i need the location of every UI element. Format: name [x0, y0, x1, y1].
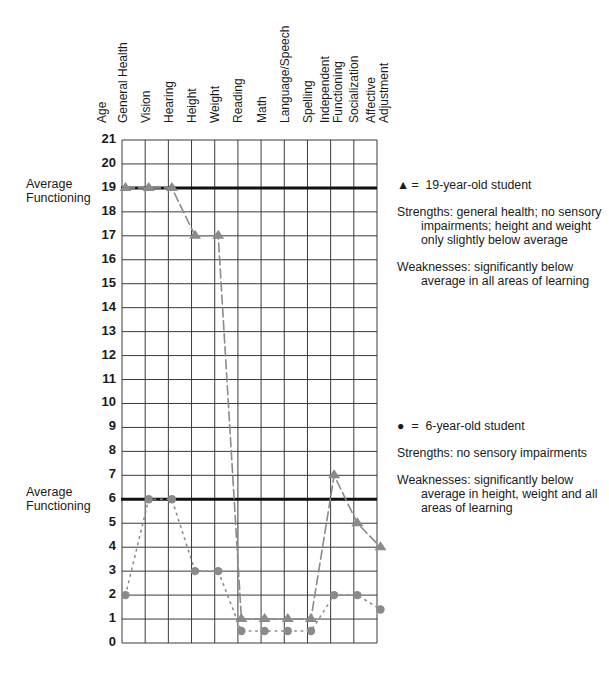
y-tick-label: 15 — [86, 276, 116, 290]
legend-younger-student: ● = 6-year-old student Strengths: no sen… — [397, 419, 609, 528]
triangle-marker — [282, 613, 294, 622]
category-label-line: Language/Speech — [279, 26, 292, 123]
circle-marker — [237, 627, 245, 635]
weaknesses-text: Weaknesses: significantly below average … — [397, 260, 609, 288]
category-label-line: General Health — [117, 42, 130, 123]
y-tick-label: 20 — [86, 156, 116, 170]
y-tick-label: 3 — [86, 563, 116, 577]
triangle-marker — [351, 517, 363, 526]
equals-sign: = — [411, 178, 418, 192]
category-label-line: Vision — [140, 91, 153, 123]
triangle-marker — [189, 230, 201, 239]
circle-marker — [144, 495, 152, 503]
y-tick-label: 10 — [86, 395, 116, 409]
legend-label: 6-year-old student — [425, 419, 524, 433]
y-tick-label: 16 — [86, 252, 116, 266]
y-tick-label: 4 — [86, 539, 116, 553]
category-label-line: Reading — [232, 78, 245, 123]
grid — [122, 140, 377, 643]
category-label-line: Functioning — [332, 56, 345, 123]
category-label-line: Socialization — [348, 56, 361, 123]
average-functioning-lines — [121, 188, 377, 499]
circle-marker — [376, 605, 384, 613]
triangle-marker — [305, 613, 317, 622]
circle-marker — [260, 627, 268, 635]
circle-marker — [353, 591, 361, 599]
circle-marker — [168, 495, 176, 503]
circle-marker — [284, 627, 292, 635]
weaknesses-key: Weaknesses: — [397, 260, 471, 274]
equals-sign: = — [411, 419, 418, 433]
circle-marker — [214, 567, 222, 575]
series-6-year-old — [121, 495, 384, 635]
y-tick-label: 5 — [86, 515, 116, 529]
x-category-label: Math — [256, 96, 269, 123]
category-label-line: Hearing — [163, 81, 176, 123]
y-tick-label: 17 — [86, 228, 116, 242]
strengths-key: Strengths: — [397, 446, 453, 460]
y-tick-label: 12 — [86, 348, 116, 362]
triangle-marker — [259, 613, 271, 622]
avg-label-line1: Average — [26, 485, 91, 499]
x-category-label: Height — [186, 88, 199, 123]
y-tick-label: 7 — [86, 467, 116, 481]
circle-marker — [191, 567, 199, 575]
strengths-text: Strengths: no sensory impairments — [397, 446, 609, 460]
data-series — [120, 182, 387, 635]
x-category-label: AffectiveAdjustment — [365, 63, 391, 123]
circle-marker — [121, 591, 129, 599]
avg-label-line2: Functioning — [26, 499, 91, 513]
category-label-line: Weight — [209, 86, 222, 123]
series-line — [126, 499, 381, 631]
y-tick-label: 0 — [86, 635, 116, 649]
y-tick-label: 14 — [86, 300, 116, 314]
x-category-label: Vision — [140, 91, 153, 123]
category-label-line: Adjustment — [378, 63, 391, 123]
triangle-marker — [328, 469, 340, 478]
x-category-label: Hearing — [163, 81, 176, 123]
average-functioning-label-lower: Average Functioning — [26, 485, 91, 513]
y-tick-label: 11 — [86, 372, 116, 386]
strengths-text: Strengths: general health; no sensory im… — [397, 205, 609, 247]
y-tick-label: 1 — [86, 611, 116, 625]
x-category-label: Weight — [209, 86, 222, 123]
y-axis-title: Age — [96, 102, 109, 123]
legend-header: ● = 6-year-old student — [397, 419, 609, 433]
circle-icon: ● — [397, 419, 408, 433]
weaknesses-key: Weaknesses: — [397, 473, 471, 487]
category-label-line: Height — [186, 88, 199, 123]
series-19-year-old — [120, 182, 387, 622]
circle-marker — [307, 627, 315, 635]
y-tick-label: 13 — [86, 324, 116, 338]
strengths-key: Strengths: — [397, 205, 453, 219]
x-category-label: General Health — [117, 42, 130, 123]
average-functioning-label-upper: Average Functioning — [26, 177, 91, 205]
y-tick-label: 8 — [86, 443, 116, 457]
category-label-line: Independent — [319, 56, 332, 123]
y-tick-label: 2 — [86, 587, 116, 601]
weaknesses-text: Weaknesses: significantly below average … — [397, 473, 609, 515]
y-tick-label: 21 — [86, 132, 116, 146]
x-category-label: Language/Speech — [279, 26, 292, 123]
triangle-icon: ▲ — [397, 178, 408, 192]
x-category-label: Spelling — [302, 80, 315, 123]
avg-label-line1: Average — [26, 177, 91, 191]
y-tick-label: 18 — [86, 204, 116, 218]
strengths-value: no sensory impairments — [456, 446, 587, 460]
x-category-label: Reading — [232, 78, 245, 123]
legend-label: 19-year-old student — [425, 178, 531, 192]
legend-older-student: ▲ = 19-year-old student Strengths: gener… — [397, 178, 609, 301]
legend-header: ▲ = 19-year-old student — [397, 178, 609, 192]
y-tick-label: 9 — [86, 419, 116, 433]
avg-label-line2: Functioning — [26, 191, 91, 205]
circle-marker — [330, 591, 338, 599]
triangle-marker — [212, 230, 224, 239]
category-label-line: Math — [256, 96, 269, 123]
category-label-line: Spelling — [302, 80, 315, 123]
x-category-label: IndependentFunctioning — [319, 56, 345, 123]
x-category-label: Socialization — [348, 56, 361, 123]
